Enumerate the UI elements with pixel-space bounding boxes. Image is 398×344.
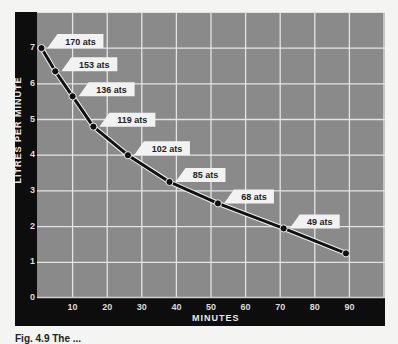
x-tick-label: 10 bbox=[63, 302, 83, 312]
y-tick-label: 6 bbox=[23, 78, 35, 88]
point-label-text: 119 ats bbox=[117, 115, 147, 125]
data-point bbox=[90, 123, 97, 130]
point-label-text: 49 ats bbox=[307, 217, 333, 227]
point-label-text: 102 ats bbox=[152, 144, 183, 154]
y-axis-label: LITRES PER MINUTE bbox=[13, 60, 23, 200]
grid-lines bbox=[37, 12, 385, 298]
x-tick-label: 30 bbox=[132, 302, 152, 312]
x-axis-label: MINUTES bbox=[192, 313, 240, 323]
x-tick-label: 40 bbox=[166, 302, 186, 312]
data-point bbox=[124, 152, 131, 159]
y-tick-label: 2 bbox=[23, 221, 35, 231]
data-point bbox=[69, 93, 76, 100]
x-tick-label: 90 bbox=[339, 302, 359, 312]
figure-caption: Fig. 4.9 The ... bbox=[15, 333, 81, 344]
point-label-text: 170 ats bbox=[65, 37, 96, 47]
y-tick-label: 0 bbox=[23, 292, 35, 302]
data-point bbox=[52, 68, 59, 75]
y-tick-label: 1 bbox=[23, 256, 35, 266]
point-label-text: 68 ats bbox=[241, 192, 267, 202]
y-tick-label: 7 bbox=[23, 42, 35, 52]
point-label-text: 153 ats bbox=[79, 60, 110, 70]
x-tick-label: 80 bbox=[305, 302, 325, 312]
x-tick-label: 50 bbox=[201, 302, 221, 312]
point-label-text: 85 ats bbox=[193, 170, 219, 180]
point-labels: 170 ats153 ats136 ats119 ats102 ats85 at… bbox=[47, 34, 339, 228]
y-tick-label: 5 bbox=[23, 114, 35, 124]
data-point bbox=[342, 250, 349, 257]
x-tick-label: 20 bbox=[97, 302, 117, 312]
data-point bbox=[214, 200, 221, 207]
y-tick-label: 3 bbox=[23, 185, 35, 195]
data-point bbox=[280, 225, 287, 232]
point-label-text: 136 ats bbox=[96, 85, 127, 95]
x-tick-label: 70 bbox=[270, 302, 290, 312]
y-tick-label: 4 bbox=[23, 149, 35, 159]
data-point bbox=[166, 178, 173, 185]
x-tick-label: 60 bbox=[236, 302, 256, 312]
data-point bbox=[38, 45, 45, 52]
